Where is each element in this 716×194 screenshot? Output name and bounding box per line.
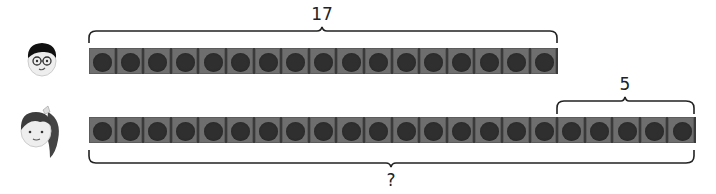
counter-cell [531, 48, 557, 74]
counter-cell [144, 117, 170, 143]
counter-cell [586, 117, 612, 143]
counter-cell [282, 117, 308, 143]
counter-cell [89, 48, 115, 74]
counter-cell [558, 117, 584, 143]
label-question: ? [371, 170, 411, 190]
counter-cell [337, 117, 363, 143]
counter-cell [310, 117, 336, 143]
counter-cell [255, 117, 281, 143]
braces-layer [0, 0, 716, 194]
counter-cell [668, 117, 694, 143]
counter-cell [117, 48, 143, 74]
counter-cell [531, 117, 557, 143]
counter-cell [172, 48, 198, 74]
counter-cell [117, 117, 143, 143]
label-5: 5 [605, 74, 645, 94]
counter-cell [227, 117, 253, 143]
counter-cell [172, 117, 198, 143]
counter-cell [365, 117, 391, 143]
counter-cell [282, 48, 308, 74]
counter-cell [337, 48, 363, 74]
top-brace-5 [557, 97, 694, 114]
counter-cell [613, 117, 639, 143]
counter-cell [365, 48, 391, 74]
counter-cell [475, 117, 501, 143]
counter-cell [503, 48, 529, 74]
counter-cell [448, 48, 474, 74]
counter-cell [144, 48, 170, 74]
counter-cell [393, 48, 419, 74]
counter-cell [310, 48, 336, 74]
counter-cell [641, 117, 667, 143]
counter-cell [255, 48, 281, 74]
counter-cell [503, 117, 529, 143]
counter-cell [199, 48, 225, 74]
counter-cell [420, 117, 446, 143]
top-brace-17 [89, 27, 557, 43]
bar-boy [89, 48, 558, 74]
counter-cell [227, 48, 253, 74]
counter-cell [199, 117, 225, 143]
counter-cell [420, 48, 446, 74]
bar-girl [89, 117, 696, 143]
counter-cell [448, 117, 474, 143]
label-17: 17 [302, 4, 342, 24]
counter-cell [393, 117, 419, 143]
counter-cell [89, 117, 115, 143]
bottom-brace-total [89, 150, 694, 167]
counter-cell [475, 48, 501, 74]
